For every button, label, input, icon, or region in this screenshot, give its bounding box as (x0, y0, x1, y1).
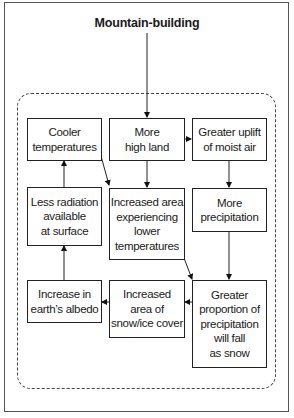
node-cooler-temperatures: Cooler temperatures (27, 118, 102, 161)
node-more-precipitation: More precipitation (192, 188, 267, 232)
node-increased-snow-ice-cover: Increased area of snow/ice cover (109, 280, 185, 338)
arrow-lower-temp-to-snow-proportion (184, 258, 192, 279)
node-greater-proportion-snow: Greater proportion of precipitation will… (192, 280, 267, 368)
node-more-high-land: More high land (109, 118, 185, 161)
node-increased-area-lower-temperatures: Increased area experiencing lower temper… (109, 188, 185, 260)
node-less-radiation: Less radiation available at surface (27, 187, 102, 246)
node-greater-uplift: Greater uplift of moist air (192, 118, 267, 161)
arrow-cooler-to-lower-temp (101, 156, 109, 185)
node-increase-albedo: Increase in earth’s albedo (27, 280, 102, 323)
